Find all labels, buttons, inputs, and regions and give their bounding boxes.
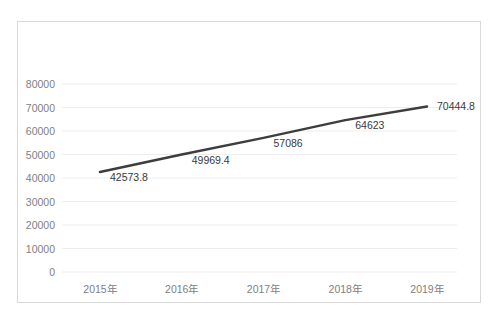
data-point-label: 70444.8 bbox=[437, 100, 475, 112]
data-point-label: 42573.8 bbox=[110, 171, 148, 183]
y-axis-tick-label: 80000 bbox=[26, 78, 55, 90]
x-axis-tick-label: 2018年 bbox=[305, 283, 385, 295]
x-axis-tick-label: 2017年 bbox=[224, 283, 304, 295]
y-axis-tick-label: 30000 bbox=[26, 196, 55, 208]
data-point-label: 49969.4 bbox=[192, 154, 230, 166]
y-axis-tick-label: 40000 bbox=[26, 172, 55, 184]
chart-canvas bbox=[0, 0, 498, 324]
y-axis-tick-label: 20000 bbox=[26, 219, 55, 231]
y-axis-tick-label: 10000 bbox=[26, 243, 55, 255]
data-series-group bbox=[100, 106, 427, 172]
data-line bbox=[100, 106, 427, 172]
y-axis-tick-label: 50000 bbox=[26, 149, 55, 161]
y-axis-tick-label: 60000 bbox=[26, 125, 55, 137]
data-point-label: 57086 bbox=[274, 137, 303, 149]
y-axis-tick-label: 0 bbox=[49, 266, 55, 278]
y-axis-tick-label: 70000 bbox=[26, 102, 55, 114]
line-chart: 8000070000600005000040000300002000010000… bbox=[0, 0, 498, 324]
x-axis-tick-label: 2016年 bbox=[142, 283, 222, 295]
x-axis-tick-label: 2019年 bbox=[387, 283, 467, 295]
x-axis-tick-label: 2015年 bbox=[60, 283, 140, 295]
data-point-label: 64623 bbox=[355, 119, 384, 131]
